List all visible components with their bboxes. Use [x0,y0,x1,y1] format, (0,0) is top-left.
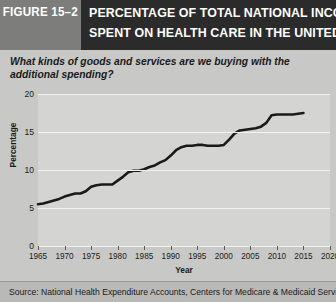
figure-title-line-2: SPENT ON HEALTH CARE IN THE UNITED STATE… [89,23,336,43]
y-tick-label: 20 [4,89,34,99]
x-tick-mark [171,246,172,250]
x-tick-label: 2020 [314,252,336,261]
x-tick-mark [118,246,119,250]
figure-number-badge: FIGURE 15–2 [0,0,81,50]
gridline [38,94,330,95]
source-footer: Source: National Health Expenditure Acco… [0,281,336,302]
x-tick-mark [91,246,92,250]
source-text: Source: National Health Expenditure Acco… [9,287,336,297]
x-tick-mark [38,246,39,250]
x-axis-title: Year [38,265,330,275]
y-tick-label: 15 [4,127,34,137]
x-axis-tick-labels: 1965197019751980198519901995200020052010… [38,252,330,264]
gridline [38,132,330,133]
figure-title-line-1: PERCENTAGE OF TOTAL NATIONAL INCOME [89,3,336,23]
x-tick-mark [277,246,278,250]
gridline [38,208,330,209]
figure-header: FIGURE 15–2 PERCENTAGE OF TOTAL NATIONAL… [0,0,336,50]
chart-subtitle: What kinds of goods and services are we … [10,55,320,81]
x-tick-mark [65,246,66,250]
gridline [38,170,330,171]
figure-number-label: FIGURE 15–2 [3,5,78,19]
x-tick-mark [330,246,331,250]
y-axis-tick-labels: 05101520 [0,94,34,246]
x-tick-mark [144,246,145,250]
y-tick-label: 0 [4,241,34,251]
figure-title: PERCENTAGE OF TOTAL NATIONAL INCOME SPEN… [81,0,336,50]
y-tick-label: 5 [4,203,34,213]
x-tick-mark [224,246,225,250]
y-tick-label: 10 [4,165,34,175]
x-tick-mark [250,246,251,250]
x-tick-mark [303,246,304,250]
x-tick-mark [197,246,198,250]
plot-area [38,94,330,246]
